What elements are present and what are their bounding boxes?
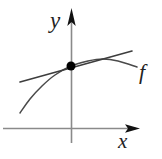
point-of-tangency: [67, 62, 76, 71]
tangent-line-figure: y x f: [0, 0, 162, 159]
function-curve-f: [20, 59, 137, 113]
y-axis: [67, 8, 75, 143]
y-axis-label: y: [50, 9, 60, 32]
function-label-f: f: [139, 61, 145, 83]
x-axis-label: x: [118, 131, 127, 152]
tangent-line: [20, 51, 132, 82]
figure-canvas: [0, 0, 162, 159]
